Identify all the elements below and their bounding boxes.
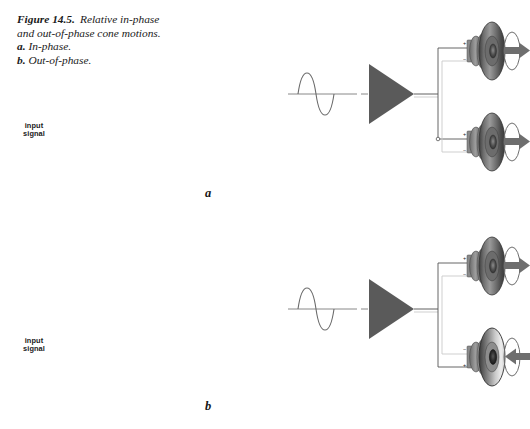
speaker-dustcap-bottom-a [490,135,497,149]
speaker-terminal-positive-bottom-a: + [463,131,466,137]
panel-letter-a: a [205,186,211,201]
speaker-terminal-negative-bottom-b: − [463,346,466,352]
cone-motion-indicator-top-b [504,247,530,285]
wiring-bottom-speaker-reversed-b [438,309,468,367]
wiring-bottom-speaker-a [436,94,468,152]
panel-in-phase: a input signal [0,0,530,214]
motion-arrow-right-top-a [504,43,530,59]
signal-chain-diagram-b: + − − [286,223,530,403]
panel-out-of-phase: b input signal [0,215,530,429]
cone-motion-indicator-bottom-a [504,123,530,161]
motion-arrow-right-bottom-a [504,134,530,150]
amplifier-a [369,64,414,124]
cone-motion-indicator-bottom-b [504,338,530,376]
speaker-bottom-b: − + [463,328,505,386]
speaker-bottom-a: + − [463,113,505,171]
speaker-dustcap-top-b [490,259,497,273]
speaker-dustcap-top-a [490,44,497,58]
wire-junction-node-a [436,137,440,141]
speaker-terminal-negative-bottom-a: − [463,147,466,153]
input-signal-label-b: input signal [8,337,60,354]
input-signal-label-a: input signal [8,122,60,139]
input-signal-line2-b: signal [8,345,60,353]
speaker-top-a: + − [463,22,505,80]
speaker-terminal-negative-top-a: − [463,56,466,62]
speaker-terminal-positive-top-b: + [463,255,466,261]
input-signal-line2-a: signal [8,130,60,138]
speaker-terminal-positive-top-a: + [463,40,466,46]
panel-letter-b: b [205,399,211,414]
speaker-dustcap-bottom-b [489,350,496,365]
motion-arrow-right-top-b [504,258,530,274]
motion-arrow-left-bottom-b [505,349,530,365]
speaker-top-b: + − [463,237,505,295]
figure-page: Figure 14.5.Relative in-phase and out-of… [0,0,530,429]
amplifier-b [369,279,414,339]
speaker-terminal-negative-top-b: − [463,271,466,277]
signal-chain-diagram-a: + − [286,8,530,188]
speaker-terminal-positive-bottom-b: + [463,362,466,368]
cone-motion-indicator-top-a [504,32,530,70]
